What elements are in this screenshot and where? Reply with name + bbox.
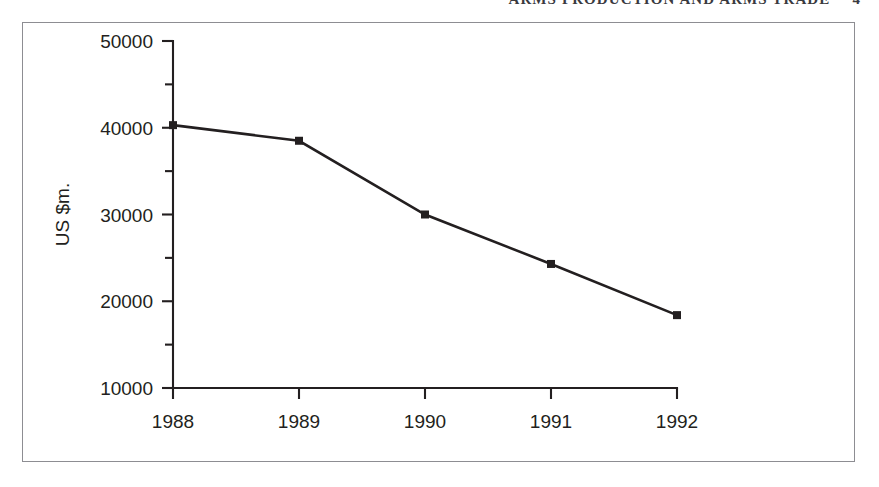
- x-tick-label: 1991: [530, 411, 572, 432]
- y-tick-label: 20000: [100, 291, 153, 312]
- x-tick-label: 1988: [152, 411, 194, 432]
- page-folio: 4: [852, 0, 861, 7]
- y-tick-label: 30000: [100, 205, 153, 226]
- x-tick-label: 1992: [656, 411, 698, 432]
- data-point-marker: [673, 311, 681, 319]
- figure-frame: 1000020000300004000050000198819891990199…: [22, 22, 855, 462]
- data-point-marker: [295, 137, 303, 145]
- data-point-marker: [421, 211, 429, 219]
- y-tick-label: 40000: [100, 118, 153, 139]
- x-tick-label: 1989: [278, 411, 320, 432]
- series-line: [173, 125, 677, 315]
- y-axis-title: US $m.: [52, 183, 73, 246]
- line-chart: 1000020000300004000050000198819891990199…: [23, 23, 856, 463]
- data-point-marker: [547, 260, 555, 268]
- data-point-marker: [169, 121, 177, 129]
- y-tick-label: 50000: [100, 31, 153, 52]
- running-head-title: ARMS PRODUCTION AND ARMS TRADE: [508, 0, 830, 7]
- x-tick-label: 1990: [404, 411, 446, 432]
- running-head: ARMS PRODUCTION AND ARMS TRADE4: [508, 0, 861, 9]
- y-tick-label: 10000: [100, 378, 153, 399]
